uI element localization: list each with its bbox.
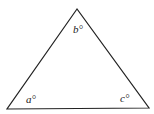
angle-label-b: b° (73, 23, 84, 35)
angle-label-c: c° (120, 92, 130, 104)
triangle-diagram: b° a° c° (0, 0, 154, 114)
angle-label-a: a° (26, 93, 37, 105)
